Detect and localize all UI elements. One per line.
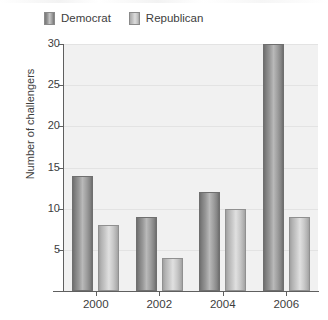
chart-legend: Democrat Republican	[44, 10, 203, 26]
legend-swatch-republican	[129, 12, 140, 25]
bar-democrat-2004[interactable]	[199, 192, 220, 291]
x-tick-mark	[286, 291, 287, 296]
bar-republican-2004[interactable]	[225, 209, 246, 291]
bar-group	[199, 44, 246, 291]
x-tick-mark	[223, 291, 224, 296]
x-tick-label-2002: 2002	[129, 299, 189, 311]
legend-item-republican: Republican	[129, 12, 204, 25]
bar-group	[136, 44, 183, 291]
clipped-edge-artifact	[0, 0, 328, 3]
legend-label-democrat: Democrat	[61, 12, 111, 25]
bar-series-layer	[64, 44, 318, 291]
x-tick-label-2000: 2000	[66, 299, 126, 311]
x-axis-line	[53, 291, 319, 292]
bar-democrat-2006[interactable]	[263, 44, 284, 291]
x-tick-mark	[159, 291, 160, 296]
y-tick-label: 10	[20, 203, 60, 214]
bar-chart: Democrat Republican Number of challenger…	[0, 0, 328, 320]
bar-group	[263, 44, 310, 291]
bar-republican-2006[interactable]	[289, 217, 310, 291]
y-tick-label: 20	[20, 120, 60, 131]
x-tick-label-2006: 2006	[256, 299, 316, 311]
bar-republican-2002[interactable]	[162, 258, 183, 291]
bar-democrat-2002[interactable]	[136, 217, 157, 291]
y-tick-label: 15	[20, 162, 60, 173]
bar-republican-2000[interactable]	[98, 225, 119, 291]
legend-label-republican: Republican	[146, 12, 204, 25]
bar-group	[72, 44, 119, 291]
legend-swatch-democrat	[44, 12, 55, 25]
y-tick-label: 30	[20, 38, 60, 49]
bar-democrat-2000[interactable]	[72, 176, 93, 291]
x-tick-label-2004: 2004	[193, 299, 253, 311]
y-tick-label: 5	[20, 244, 60, 255]
y-tick-label: 25	[20, 79, 60, 90]
legend-item-democrat: Democrat	[44, 12, 111, 25]
x-tick-mark	[96, 291, 97, 296]
